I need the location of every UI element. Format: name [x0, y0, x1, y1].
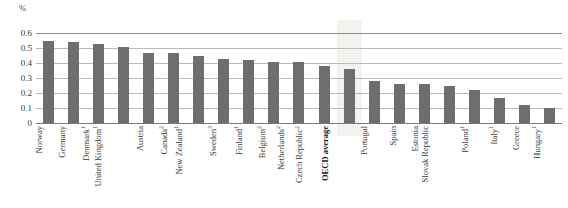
y-axis-tick-label: 0 — [28, 119, 33, 128]
x-axis-tick-label: Austria — [136, 126, 145, 151]
x-label-slot: Slovak Republic — [437, 124, 462, 208]
bar — [319, 66, 330, 123]
footnote-marker: 2 — [158, 126, 164, 129]
x-axis-tick-label: Canada2 — [160, 126, 169, 155]
bar — [43, 41, 54, 124]
y-axis-tick-label: 0.3 — [21, 74, 32, 83]
bar — [168, 53, 179, 124]
bar — [444, 86, 455, 124]
x-axis-tick-label: Finland1 — [234, 126, 243, 155]
plot-area — [36, 33, 562, 123]
y-axis: 0.60.50.40.30.20.10 — [0, 0, 36, 208]
x-axis-tick-label: Greece — [512, 126, 521, 150]
bar-slot — [211, 33, 236, 123]
bar — [193, 56, 204, 124]
bar — [519, 105, 530, 123]
bar — [268, 62, 279, 124]
bar-slot — [86, 33, 111, 123]
footnote-marker: 1 — [459, 126, 465, 129]
bar-slot — [61, 33, 86, 123]
bar-slot — [412, 33, 437, 123]
x-axis-tick-label: New Zealand1 — [175, 126, 184, 175]
bar-series — [36, 33, 562, 123]
x-axis-tick-label: United Kingdom1 — [93, 126, 102, 186]
x-label-slot: Poland1 — [462, 124, 487, 208]
bar — [344, 69, 355, 123]
x-axis-tick-label: Slovak Republic — [421, 126, 430, 182]
bar-slot — [462, 33, 487, 123]
x-label-slot: Spain — [387, 124, 412, 208]
bar — [68, 42, 79, 123]
x-axis-tick-label: Germany — [58, 126, 67, 158]
x-axis-tick-label: Italy1 — [490, 126, 499, 145]
bar-chart: % 0.60.50.40.30.20.10 NorwayGermanyDenma… — [0, 0, 568, 208]
y-axis-tick-label: 0.1 — [21, 104, 32, 113]
bar-slot — [537, 33, 562, 123]
x-axis-tick-label: Belgium2 — [258, 126, 267, 158]
footnote-marker: 1 — [79, 126, 85, 129]
footnote-marker: 1 — [92, 126, 98, 129]
bar-slot — [161, 33, 186, 123]
x-axis-tick-label: Netherlands2 — [277, 126, 286, 170]
bar-slot — [437, 33, 462, 123]
footnote-marker: 1 — [488, 126, 494, 129]
bar-slot — [312, 33, 337, 123]
bar — [419, 84, 430, 123]
bar — [243, 60, 254, 123]
bar — [143, 53, 154, 124]
x-axis-tick-label: Czech Republic2 — [296, 126, 305, 183]
bar-slot — [362, 33, 387, 123]
bar-slot — [512, 33, 537, 123]
footnote-marker: 2 — [256, 126, 262, 129]
bar — [293, 62, 304, 124]
x-label-slot: Hungary1 — [537, 124, 562, 208]
footnote-marker: 1 — [531, 126, 537, 129]
x-label-slot: Italy1 — [487, 124, 512, 208]
y-axis-tick-label: 0.6 — [21, 29, 32, 38]
bar — [93, 44, 104, 124]
footnote-marker: 2 — [275, 126, 281, 129]
footnote-marker: 1 — [233, 126, 239, 129]
x-axis-tick-label: Spain — [389, 126, 398, 145]
bar-slot — [136, 33, 161, 123]
x-axis-tick-label: Poland1 — [461, 126, 470, 153]
bar-slot — [36, 33, 61, 123]
x-axis-tick-label: Norway — [35, 126, 44, 153]
y-axis-tick-label: 0.2 — [21, 89, 32, 98]
x-axis-category-labels: NorwayGermanyDenmark1United Kingdom1Aust… — [36, 124, 562, 208]
bar — [218, 59, 229, 124]
bar-slot — [236, 33, 261, 123]
x-axis-tick-label: Portugal — [360, 126, 369, 155]
footnote-marker: 3 — [207, 126, 213, 129]
y-axis-tick-label: 0.5 — [21, 44, 32, 53]
bar — [394, 84, 405, 123]
bar — [118, 47, 129, 124]
x-axis-tick-label: OECD average — [322, 126, 331, 181]
x-label-slot: Portugal — [362, 124, 387, 208]
bar-slot — [186, 33, 211, 123]
bar-slot — [387, 33, 412, 123]
footnote-marker: 2 — [294, 126, 300, 129]
footnote-marker: 1 — [173, 126, 179, 129]
x-label-slot: United Kingdom1 — [111, 124, 136, 208]
bar — [469, 90, 480, 123]
y-axis-tick-label: 0.4 — [21, 59, 32, 68]
bar-slot — [337, 33, 362, 123]
bar-slot — [261, 33, 286, 123]
x-axis-tick-label: Hungary1 — [533, 126, 542, 159]
x-label-slot: Austria — [136, 124, 161, 208]
x-axis-tick-label: Sweden3 — [209, 126, 218, 156]
bar-slot — [487, 33, 512, 123]
bar-slot — [286, 33, 311, 123]
bar-slot — [111, 33, 136, 123]
x-axis-tick-label: Denmark1 — [81, 126, 90, 161]
bar — [544, 108, 555, 123]
bar — [494, 98, 505, 124]
bar — [369, 81, 380, 123]
